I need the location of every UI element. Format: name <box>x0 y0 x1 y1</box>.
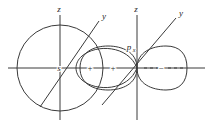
minus-sign-right: − <box>158 63 163 73</box>
plus-sign-inner: + <box>87 63 92 73</box>
y-axis-label-left: y <box>101 11 106 21</box>
orbital-diagram-canvas: z y z y s p x + + − <box>0 0 213 127</box>
orbital-diagram-figure: z y z y s p x + + − <box>0 0 213 127</box>
px-orbital-label: p <box>126 42 132 52</box>
plus-sign-outer: + <box>110 63 115 73</box>
y-axis-label-right: y <box>178 8 183 18</box>
s-orbital-label: s <box>57 63 61 73</box>
px-orbital-subscript: x <box>132 47 136 53</box>
y-axis-right <box>102 18 176 105</box>
z-axis-label-right: z <box>133 4 138 14</box>
z-axis-label-left: z <box>56 4 61 14</box>
